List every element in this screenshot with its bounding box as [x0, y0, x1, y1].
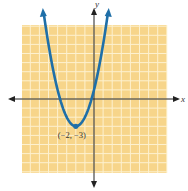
y-axis-down-arrow-icon — [91, 181, 97, 188]
vertex-point — [73, 124, 78, 129]
y-axis-label: y — [94, 0, 99, 9]
vertex-label: (−2, −3) — [58, 130, 86, 140]
curve-left-arrow-icon — [40, 8, 47, 17]
y-axis-up-arrow-icon — [91, 8, 97, 15]
x-axis-label: x — [180, 94, 185, 104]
x-axis-right-arrow-icon — [173, 96, 180, 102]
parabola-chart: x y (−2, −3) — [0, 0, 188, 191]
curve-right-arrow-icon — [105, 8, 112, 17]
x-axis-left-arrow-icon — [8, 96, 15, 102]
